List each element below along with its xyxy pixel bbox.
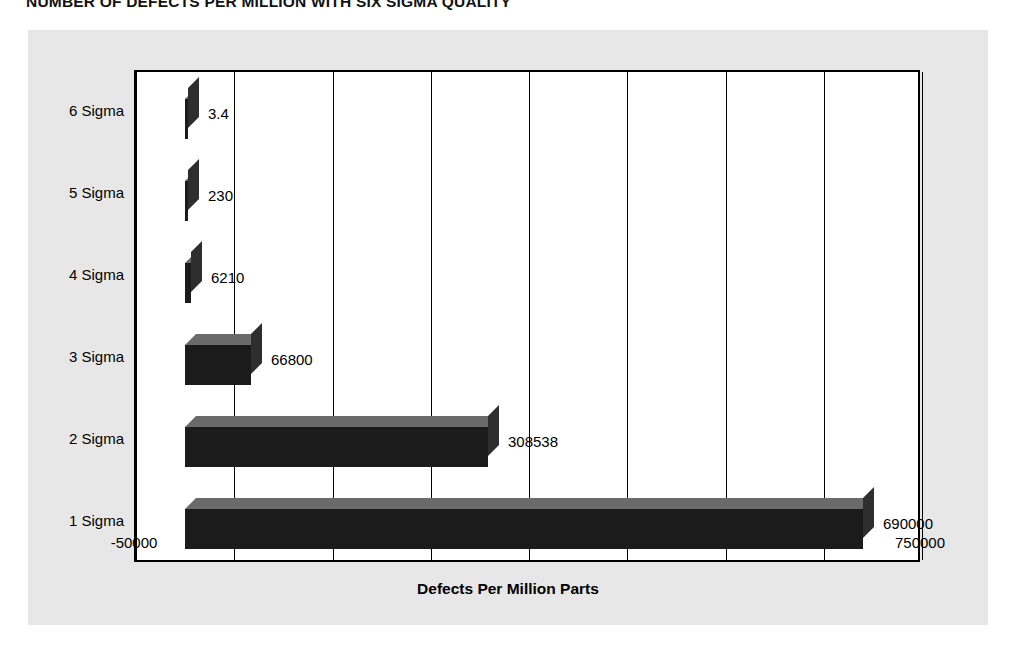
x-axis-title: Defects Per Million Parts [28, 580, 988, 598]
bar-data-label: 690000 [883, 516, 933, 532]
category-label-5-sigma: 5 Sigma [34, 185, 124, 201]
bar-top-face [185, 416, 499, 427]
gridline [922, 72, 923, 560]
bar-data-label: 308538 [508, 434, 558, 450]
bar-side-face [863, 487, 874, 538]
chart-panel: 3.4230621066800308538690000 6 Sigma5 Sig… [28, 30, 988, 625]
plot-frame: 3.4230621066800308538690000 [134, 70, 920, 562]
chart-title: NUMBER OF DEFECTS PER MILLION WITH SIX S… [26, 0, 726, 13]
bar-data-label: 66800 [271, 352, 313, 368]
bar-front-face [185, 181, 188, 221]
bar-front-face [185, 509, 863, 549]
bar-data-label: 3.4 [208, 106, 229, 122]
bar-front-face [185, 263, 191, 303]
bar-front-face [185, 427, 488, 467]
bar-1-sigma[interactable]: 690000 [136, 72, 918, 560]
plot-area: 3.4230621066800308538690000 [136, 72, 918, 560]
bar-top-face [185, 498, 874, 509]
x-tick-label: 750000 [875, 534, 965, 551]
bar-data-label: 6210 [211, 270, 244, 286]
x-tick-label: -50000 [89, 534, 179, 551]
category-label-3-sigma: 3 Sigma [34, 349, 124, 365]
bar-front-face [185, 99, 188, 139]
category-label-4-sigma: 4 Sigma [34, 267, 124, 283]
category-label-6-sigma: 6 Sigma [34, 103, 124, 119]
category-label-2-sigma: 2 Sigma [34, 431, 124, 447]
bar-data-label: 230 [208, 188, 233, 204]
bar-front-face [185, 345, 251, 385]
category-label-1-sigma: 1 Sigma [34, 513, 124, 529]
